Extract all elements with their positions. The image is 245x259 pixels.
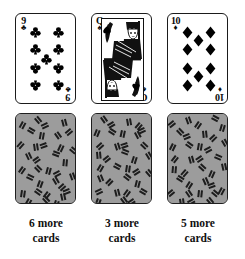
caption-line-2: cards [160, 231, 236, 246]
spades-pip [131, 81, 141, 92]
caption-line-1: 5 more [160, 216, 236, 231]
caption-line-1: 6 more [8, 216, 84, 231]
clubs-pip [40, 53, 53, 66]
card-back-pattern [16, 114, 75, 203]
spades-pip [102, 25, 112, 36]
caption-line-2: cards [84, 231, 160, 246]
diamonds-pip [204, 62, 217, 75]
card-back-pattern [92, 114, 151, 203]
face-up-card-queen-of-spades[interactable]: Q ♠ Q ♠ [91, 13, 152, 104]
face-down-card[interactable] [15, 113, 76, 204]
diamonds-pip [204, 43, 217, 56]
card-figure: 9 ♣ 9 ♣ [0, 0, 245, 259]
caption-line-1: 3 more [84, 216, 160, 231]
caption-line-2: cards [8, 231, 84, 246]
face-down-card[interactable] [167, 113, 228, 204]
card-pile-2: Q ♠ Q ♠ [84, 0, 160, 259]
face-up-card-9-of-clubs[interactable]: 9 ♣ 9 ♣ [15, 13, 76, 104]
pip-layout-9 [16, 14, 75, 103]
face-down-card[interactable] [91, 113, 152, 204]
diamonds-pip [204, 79, 217, 92]
card-pile-1: 9 ♣ 9 ♣ [8, 0, 84, 259]
clubs-pip [52, 43, 65, 56]
pile-caption: 6 more cards [8, 216, 84, 245]
pip-layout-10 [168, 14, 227, 103]
card-back-pattern [168, 114, 227, 203]
clubs-pip [29, 26, 42, 39]
diamonds-pip [192, 70, 205, 83]
clubs-pip [52, 26, 65, 39]
clubs-pip [52, 62, 65, 75]
diamonds-pip [204, 26, 217, 39]
clubs-pip [52, 79, 65, 92]
pile-caption: 5 more cards [160, 216, 236, 245]
diamonds-pip [192, 34, 205, 47]
pile-caption: 3 more cards [84, 216, 160, 245]
face-up-card-10-of-diamonds[interactable]: 10 ♦ 10 ♦ [167, 13, 228, 104]
clubs-pip [29, 79, 42, 92]
card-pile-3: 10 ♦ 10 ♦ [160, 0, 236, 259]
